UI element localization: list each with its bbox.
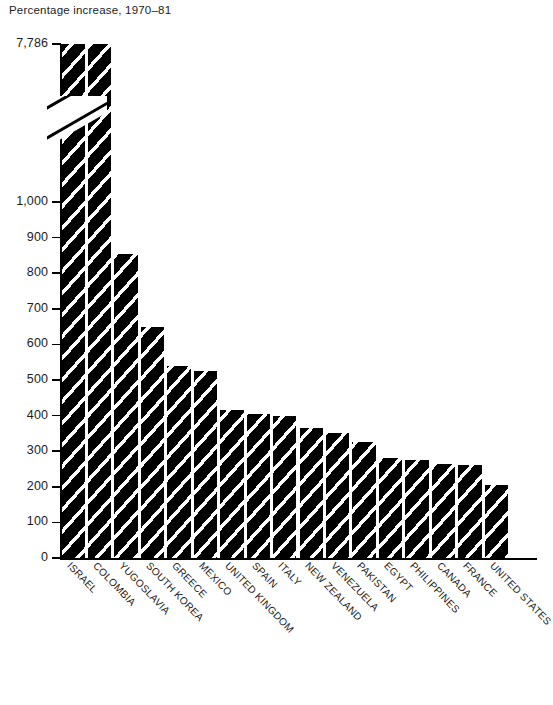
y-tick-mark bbox=[52, 237, 61, 239]
bar bbox=[62, 44, 85, 558]
y-tick-mark bbox=[52, 201, 61, 203]
bar bbox=[432, 464, 455, 558]
bar bbox=[458, 465, 481, 558]
bar bbox=[88, 44, 111, 558]
plot-area bbox=[62, 0, 538, 558]
x-axis-label: ITALY bbox=[276, 560, 304, 588]
y-tick-mark bbox=[52, 557, 61, 559]
bar bbox=[220, 410, 243, 558]
y-tick-mark bbox=[52, 522, 61, 524]
y-tick-label: 700 bbox=[0, 301, 48, 315]
y-tick-label: 300 bbox=[0, 443, 48, 457]
y-tick-mark bbox=[52, 415, 61, 417]
bar bbox=[114, 254, 137, 558]
y-tick-label: 400 bbox=[0, 408, 48, 422]
x-axis-label: UNITED STATES bbox=[488, 560, 553, 627]
y-tick-mark bbox=[52, 272, 61, 274]
y-tick-mark bbox=[52, 379, 61, 381]
y-tick-mark bbox=[52, 344, 61, 346]
bar bbox=[485, 485, 508, 558]
bar bbox=[141, 327, 164, 558]
x-axis-category-labels: ISRAELCOLOMBIAYUGOSLAVIASOUTH KOREAGREEC… bbox=[0, 560, 547, 705]
bar bbox=[300, 428, 323, 558]
bar bbox=[247, 414, 270, 558]
y-tick-mark bbox=[52, 308, 61, 310]
y-tick-label: 100 bbox=[0, 514, 48, 528]
y-tick-mark bbox=[52, 450, 61, 452]
y-tick-mark bbox=[52, 486, 61, 488]
y-tick-label: 600 bbox=[0, 336, 48, 350]
y-tick-label: 1,000 bbox=[0, 194, 48, 208]
y-tick-label: 500 bbox=[0, 372, 48, 386]
bar bbox=[167, 366, 190, 558]
bar bbox=[326, 433, 349, 558]
y-tick-mark bbox=[52, 43, 61, 45]
bar bbox=[405, 460, 428, 558]
y-tick-label: 900 bbox=[0, 230, 48, 244]
bar bbox=[352, 442, 375, 558]
y-axis-line bbox=[60, 44, 62, 559]
bar bbox=[273, 416, 296, 558]
y-tick-label: 200 bbox=[0, 479, 48, 493]
y-tick-label: 7,786 bbox=[0, 36, 48, 50]
y-tick-label: 800 bbox=[0, 265, 48, 279]
bar bbox=[379, 458, 402, 558]
bar bbox=[194, 371, 217, 558]
